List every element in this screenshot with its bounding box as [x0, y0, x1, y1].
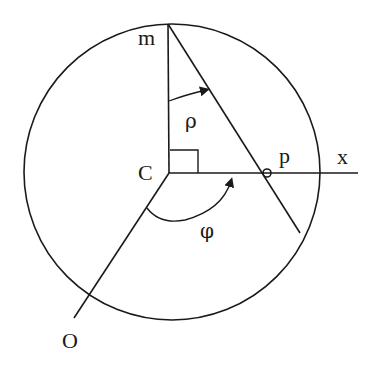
label-m: m: [138, 25, 155, 50]
line-c-m: [168, 24, 169, 173]
rho-arc: [169, 90, 206, 101]
label-c: C: [138, 160, 153, 185]
right-angle-marker: [170, 150, 198, 173]
label-p: p: [279, 143, 290, 168]
label-rho: ρ: [185, 109, 197, 133]
label-o: O: [62, 328, 78, 353]
label-x: x: [337, 144, 348, 169]
label-phi: φ: [200, 219, 214, 243]
geometry-diagram: m ρ C p x φ O: [0, 0, 378, 367]
outer-circle: [24, 24, 320, 320]
diagram-svg: m ρ C p x φ O: [0, 0, 378, 367]
line-c-o: [74, 173, 169, 318]
